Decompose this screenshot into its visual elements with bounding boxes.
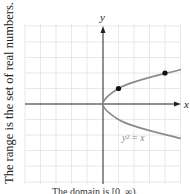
y-axis-label: y <box>99 11 105 23</box>
point-4-2 <box>162 70 167 75</box>
axes <box>25 30 177 184</box>
curve-label: y² = x <box>121 133 145 143</box>
y-axis-arrow-icon <box>101 26 106 33</box>
point-1-1 <box>116 86 121 91</box>
x-axis-arrow-icon <box>174 102 181 107</box>
range-caption: The range is the set of real numbers. <box>2 14 17 184</box>
x-axis-label: x <box>183 98 189 110</box>
domain-caption: The domain is [0, ∞). <box>0 186 190 194</box>
parabola-figure: x y y² = x <box>0 0 190 194</box>
